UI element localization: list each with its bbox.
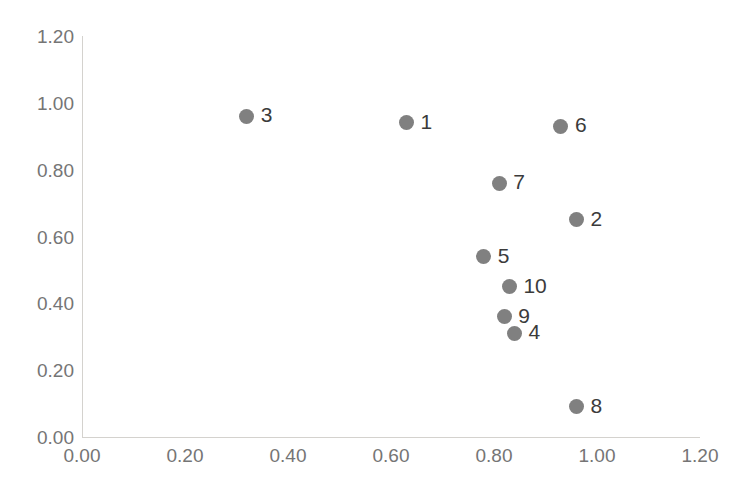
y-tick-label: 1.20 [8, 27, 74, 46]
scatter-chart: 0.000.200.400.600.801.001.20 0.000.200.4… [0, 0, 737, 496]
x-axis-line [82, 437, 700, 438]
data-point-marker[interactable] [492, 176, 507, 191]
x-tick-label: 1.00 [557, 446, 637, 465]
data-point-label: 8 [590, 395, 602, 416]
data-point-label: 7 [513, 171, 525, 192]
y-tick-label: 0.20 [8, 361, 74, 380]
data-point-label: 6 [575, 114, 587, 135]
x-tick-label: 0.60 [351, 446, 431, 465]
data-point-label: 2 [590, 208, 602, 229]
data-point-label: 10 [523, 275, 546, 296]
plot-area [82, 36, 700, 437]
data-point-marker[interactable] [502, 279, 517, 294]
data-point-label: 5 [498, 245, 510, 266]
data-point-marker[interactable] [507, 326, 522, 341]
y-tick-label: 0.40 [8, 294, 74, 313]
data-point-label: 9 [518, 305, 530, 326]
data-point-label: 1 [420, 111, 432, 132]
data-point-label: 4 [529, 321, 541, 342]
x-tick-label: 0.00 [42, 446, 122, 465]
y-tick-label: 0.80 [8, 161, 74, 180]
x-tick-label: 1.20 [660, 446, 737, 465]
x-tick-label: 0.40 [248, 446, 328, 465]
x-tick-label: 0.20 [145, 446, 225, 465]
x-tick-label: 0.80 [454, 446, 534, 465]
data-point-label: 3 [261, 104, 273, 125]
data-point-marker[interactable] [239, 109, 254, 124]
y-tick-label: 1.00 [8, 94, 74, 113]
y-tick-label: 0.60 [8, 228, 74, 247]
data-point-marker[interactable] [497, 309, 512, 324]
